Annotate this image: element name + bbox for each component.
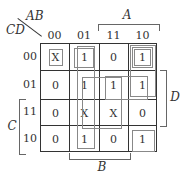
label-A: A	[120, 9, 134, 21]
col-header: 00	[40, 30, 69, 42]
cell-r0-c2: 0	[99, 44, 128, 71]
label-D: D	[168, 91, 182, 103]
bracket-D	[160, 70, 167, 127]
cell-r2-c0: 0	[41, 100, 70, 126]
group-loop	[132, 130, 155, 152]
cell-r3-c2: 0	[99, 126, 128, 152]
kmap-grid: X 1 0 1 0 1 1 1 0 X X 0 0 1 0 1	[40, 43, 157, 152]
row-header: 01	[20, 79, 40, 91]
col-header: 10	[128, 30, 157, 42]
bracket-A	[98, 24, 160, 31]
col-var-label: AB	[26, 10, 43, 22]
bracket-B	[69, 153, 131, 160]
group-loop	[130, 45, 156, 97]
row-var-label: CD	[6, 24, 25, 36]
cell-r1-c0: 0	[41, 71, 70, 99]
label-C: C	[6, 120, 18, 132]
col-header: 01	[69, 30, 99, 42]
label-B: B	[95, 161, 109, 173]
col-header: 11	[99, 30, 128, 42]
cell-r2-c3: 0	[128, 100, 157, 126]
row-header: 00	[20, 51, 40, 63]
cell-r3-c0: 0	[41, 126, 70, 152]
bracket-C	[19, 99, 26, 155]
group-loop	[49, 49, 63, 66]
